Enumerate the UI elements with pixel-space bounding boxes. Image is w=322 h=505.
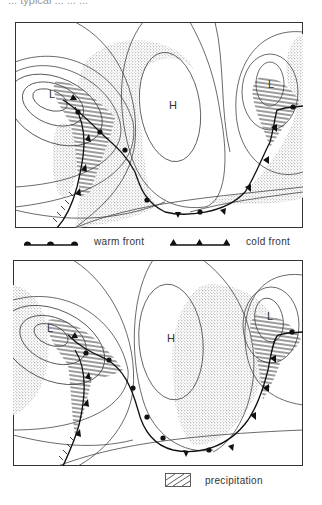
low-pressure-label-east: L: [267, 310, 273, 322]
weather-map-bottom: L H L: [13, 260, 303, 466]
precipitation-hatch-icon: [165, 473, 191, 487]
figure-caption-cutoff: ... typical ... ... ...: [8, 0, 88, 6]
low-pressure-label-west: L: [49, 88, 55, 100]
cold-front-symbol-icon: [168, 237, 232, 247]
legend-warm-front: warm front: [22, 236, 144, 247]
high-pressure-label: H: [169, 99, 177, 111]
warm-front-label: warm front: [94, 236, 144, 247]
high-pressure-label: H: [167, 332, 175, 344]
low-pressure-label-west: L: [47, 322, 53, 334]
weather-map-top: L H L: [15, 22, 303, 228]
warm-front-symbol-icon: [22, 237, 80, 247]
low-pressure-label-east: L: [268, 78, 274, 90]
legend-precipitation: precipitation: [165, 473, 263, 487]
legend-cold-front: cold front: [168, 236, 290, 247]
precipitation-label: precipitation: [205, 475, 263, 486]
cold-front-label: cold front: [246, 236, 290, 247]
